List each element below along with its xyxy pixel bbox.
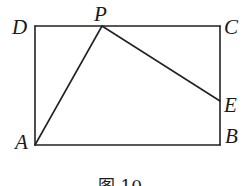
label-c: C — [224, 15, 239, 39]
label-e: E — [223, 93, 237, 117]
rectangle-abcd — [35, 26, 220, 145]
label-d: D — [11, 15, 27, 39]
label-a: A — [13, 130, 28, 154]
figure-caption: 图 10 — [98, 176, 142, 186]
segment-ap — [35, 26, 102, 145]
segment-pe — [102, 26, 220, 101]
label-p: P — [93, 2, 107, 26]
geometry-figure: D P C E B A 图 10 — [0, 0, 248, 186]
label-b: B — [225, 124, 238, 148]
